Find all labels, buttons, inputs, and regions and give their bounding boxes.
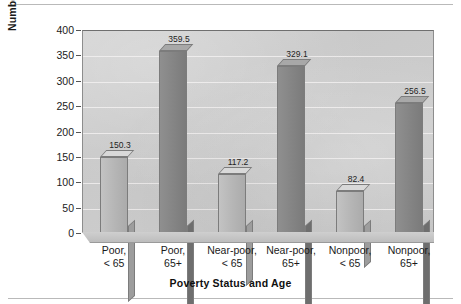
y-tick-mark (76, 208, 81, 209)
x-tick-line1: Nonpoor, (370, 244, 448, 257)
chart-base (82, 232, 434, 243)
y-tick-label: 50 (0, 203, 74, 213)
y-tick-label: 100 (0, 177, 74, 187)
bar-value-label: 359.5 (155, 34, 203, 44)
y-tick-label: 200 (0, 127, 74, 137)
x-tick-label-nonpoor-65plus: Nonpoor, 65+ (370, 244, 448, 270)
y-tick-label: 0 (0, 228, 74, 238)
y-tick-label: 350 (0, 50, 74, 60)
y-tick-mark (76, 106, 81, 107)
x-axis-tick-labels: Poor, < 65 Poor, 65+ Near-poor, < 65 Nea… (82, 244, 434, 274)
bar-series: 150.3 359.5 117.2 329.1 82.4 (82, 30, 434, 233)
bar-value-label: 82.4 (332, 174, 380, 184)
y-tick-label: 400 (0, 25, 74, 35)
y-tick-label: 250 (0, 101, 74, 111)
y-axis: 0 50 100 150 200 250 300 350 400 (0, 0, 82, 304)
y-tick-mark (76, 132, 81, 133)
y-tick-mark (76, 182, 81, 183)
y-tick-label: 150 (0, 152, 74, 162)
y-tick-mark (76, 157, 81, 158)
bar-value-label: 329.1 (273, 49, 321, 59)
x-tick-line2: 65+ (370, 257, 448, 270)
bar-value-label: 150.3 (96, 140, 144, 150)
y-tick-mark (76, 233, 81, 234)
y-tick-mark (76, 30, 81, 31)
bar-value-label: 256.5 (391, 86, 439, 96)
x-axis-title: Poverty Status and Age (0, 277, 461, 289)
y-tick-label: 300 (0, 76, 74, 86)
chart-figure: Number per 1,000 Population 0 50 100 150… (0, 0, 461, 304)
bar-value-label: 117.2 (214, 157, 262, 167)
y-tick-mark (76, 81, 81, 82)
y-tick-mark (76, 55, 81, 56)
